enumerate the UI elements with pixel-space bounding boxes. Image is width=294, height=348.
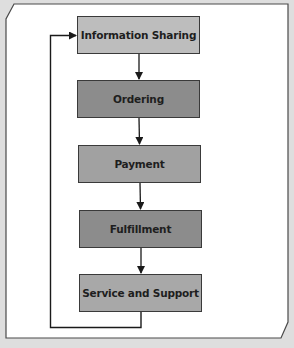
arrow-ordering-to-payment [139,118,140,144]
node-label: Payment [114,158,164,170]
node-label: Ordering [113,93,164,105]
node-information-sharing: Information Sharing [77,16,200,54]
arrow-payment-to-fulfillment [140,183,141,209]
node-label: Fulfillment [110,223,171,235]
node-fulfillment: Fulfillment [79,210,202,248]
node-payment: Payment [78,145,201,183]
diagram-canvas: Information Sharing Ordering Payment Ful… [0,0,294,348]
node-service-and-support: Service and Support [79,274,202,312]
node-ordering: Ordering [77,80,200,118]
node-label: Service and Support [82,287,199,299]
node-label: Information Sharing [81,29,196,41]
